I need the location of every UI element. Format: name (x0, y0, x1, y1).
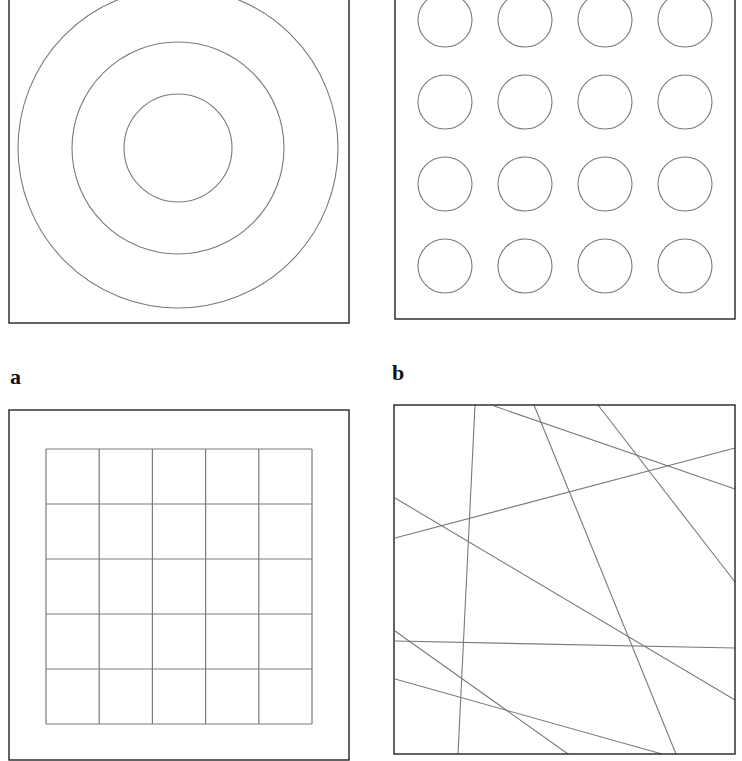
grid-circle (418, 239, 472, 293)
grid-circle (418, 157, 472, 211)
panel-label-a: a (10, 366, 21, 388)
random-line (395, 498, 735, 700)
panel-frame (394, 405, 735, 754)
grid-circle (658, 239, 712, 293)
circle-shape (124, 94, 232, 202)
grid-circle (498, 157, 552, 211)
grid-circle (658, 75, 712, 129)
grid-circle (578, 75, 632, 129)
random-lines-panel (394, 405, 735, 754)
grid-circle (578, 157, 632, 211)
square-grid-panel (9, 410, 349, 760)
grid-circle (658, 0, 712, 47)
random-line (395, 679, 662, 754)
figure-canvas (0, 0, 742, 761)
grid-circle (658, 157, 712, 211)
random-line (458, 405, 475, 754)
circle-shape (72, 42, 284, 254)
grid-circle (418, 0, 472, 47)
random-line (395, 448, 735, 538)
random-line (395, 631, 568, 754)
grid-circle (498, 0, 552, 47)
grid-circle (498, 239, 552, 293)
panel-frame (395, 0, 735, 319)
random-line (395, 641, 735, 648)
circle-grid-panel (395, 0, 735, 319)
circle-shape (18, 0, 338, 308)
panel-label-b: b (392, 362, 404, 384)
random-line (534, 405, 676, 754)
panel-frame (9, 0, 349, 323)
panel-frame (9, 410, 349, 760)
grid-circle (498, 75, 552, 129)
random-line (494, 406, 735, 489)
grid-circle (578, 0, 632, 47)
grid-circle (418, 75, 472, 129)
grid-circle (578, 239, 632, 293)
random-line (598, 405, 735, 582)
concentric-circles-panel (9, 0, 349, 323)
